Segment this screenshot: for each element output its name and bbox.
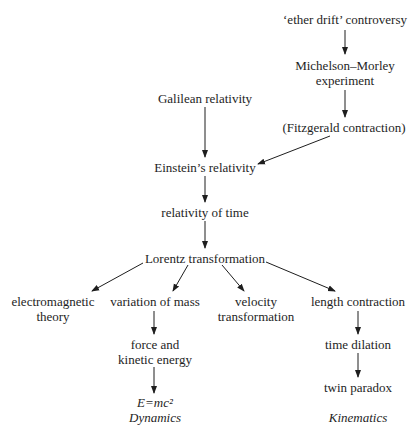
node-galilean-relativity: Galilean relativity	[158, 91, 252, 106]
label-kinematics: Kinematics	[329, 410, 388, 425]
node-fitzgerald-contraction: (Fitzgerald contraction)	[282, 120, 405, 135]
node-text-line: Einstein’s relativity	[154, 160, 255, 175]
arrow-fitzgerald-to-einstein	[258, 136, 330, 164]
node-text-line: relativity of time	[161, 205, 248, 220]
node-einstein-relativity: Einstein’s relativity	[154, 160, 255, 175]
node-time-dilation: time dilation	[325, 337, 391, 352]
node-text-line: time dilation	[325, 337, 391, 352]
node-text-line: ‘ether drift’ controversy	[283, 12, 407, 27]
node-lorentz-transformation: Lorentz transformation	[145, 251, 265, 266]
node-text-line: Dynamics	[129, 410, 181, 425]
node-text-line: Galilean relativity	[158, 91, 252, 106]
node-twin-paradox: twin paradox	[324, 380, 392, 395]
concept-diagram: ‘ether drift’ controversy Michelson–Morl…	[0, 0, 413, 437]
node-text-line: theory	[11, 309, 94, 324]
arrow-lorentz-to-variation-mass	[173, 265, 188, 291]
node-michelson-morley: Michelson–Morleyexperiment	[295, 58, 395, 88]
node-relativity-of-time: relativity of time	[161, 205, 248, 220]
node-velocity-transformation: velocitytransformation	[218, 294, 295, 324]
node-variation-of-mass: variation of mass	[110, 294, 200, 309]
node-text-line: Kinematics	[329, 410, 388, 425]
node-text-line: (Fitzgerald contraction)	[282, 120, 405, 135]
node-text-line: transformation	[218, 309, 295, 324]
node-text-line: Lorentz transformation	[145, 251, 265, 266]
node-electromagnetic-theory: electromagnetictheory	[11, 294, 94, 324]
node-length-contraction: length contraction	[311, 294, 405, 309]
arrow-lorentz-to-length-contraction	[266, 262, 335, 291]
arrow-lorentz-to-electromagnetic	[92, 263, 143, 291]
node-text-line: length contraction	[311, 294, 405, 309]
node-force-kinetic-energy: force andkinetic energy	[118, 337, 192, 367]
node-text-line: kinetic energy	[118, 352, 192, 367]
label-dynamics: Dynamics	[129, 410, 181, 425]
node-text-line: E=mc²	[137, 395, 173, 410]
node-text-line: Michelson–Morley	[295, 58, 395, 73]
node-text-line: variation of mass	[110, 294, 200, 309]
node-text-line: electromagnetic	[11, 294, 94, 309]
node-text-line: twin paradox	[324, 380, 392, 395]
node-text-line: force and	[118, 337, 192, 352]
arrow-lorentz-to-velocity	[222, 265, 244, 291]
node-text-line: experiment	[295, 73, 395, 88]
node-e-equals-mc2: E=mc²	[137, 395, 173, 410]
node-ether-drift: ‘ether drift’ controversy	[283, 12, 407, 27]
node-text-line: velocity	[218, 294, 295, 309]
